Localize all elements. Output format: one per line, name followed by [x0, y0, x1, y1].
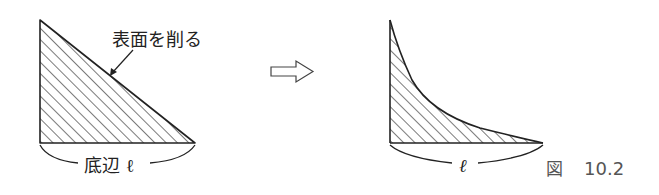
base-brace [40, 145, 78, 163]
figure-caption: 図 10.2 [546, 158, 624, 179]
hollow-right-arrow-icon [271, 61, 313, 82]
right-curved-figure: ℓ [388, 18, 548, 176]
caption-number: 10.2 [584, 158, 624, 179]
base-brace [150, 145, 195, 163]
curve-hatch-fill [388, 18, 548, 146]
base-brace [390, 145, 452, 163]
base-label: ℓ [459, 155, 467, 176]
base-brace [478, 145, 543, 163]
caption-prefix: 図 [546, 159, 563, 179]
base-label: 底辺 ℓ [84, 155, 134, 176]
annotation-label: 表面を削る [112, 29, 202, 50]
figure-10-2: 表面を削る 底辺 ℓ ℓ 図 10.2 [0, 0, 659, 195]
annotation-arrow-icon [110, 50, 133, 76]
left-triangle-figure: 表面を削る 底辺 ℓ [40, 20, 202, 176]
